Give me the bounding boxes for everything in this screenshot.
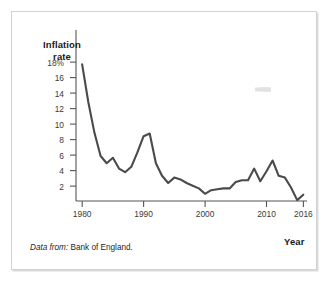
y-axis-ticks [70,62,76,186]
source-note-emphasis: Data from: [30,243,68,252]
source-note-text: Bank of England. [68,243,133,252]
figure-frame: Inflation rate Year 18% 16 14 12 10 8 6 … [11,11,317,270]
y-tick-label: 12 [38,104,64,114]
y-tick-label: 16 [38,73,64,83]
y-tick-label: 14 [38,89,64,99]
page-smudge-artifact [255,87,271,92]
y-tick-label: 8 [38,135,64,145]
y-tick-label: 2 [38,182,64,192]
figure-container: Inflation rate Year 18% 16 14 12 10 8 6 … [0,0,332,284]
y-tick-label: 18% [38,58,64,68]
x-tick-label: 1980 [65,209,99,219]
x-tick-label: 2010 [250,209,284,219]
x-tick-label: 2000 [188,209,222,219]
source-note: Data from: Bank of England. [30,243,133,252]
y-tick-label: 4 [38,166,64,176]
chart-axes [70,30,307,207]
y-tick-label: 6 [38,151,64,161]
y-axis-title-line1: Inflation [34,39,90,51]
x-tick-label: 1990 [127,209,161,219]
x-tick-label: 2016 [286,209,320,219]
y-tick-label: 10 [38,120,64,130]
inflation-rate-line [82,64,303,200]
x-axis-title: Year [284,236,304,247]
x-axis-ticks [82,201,303,207]
